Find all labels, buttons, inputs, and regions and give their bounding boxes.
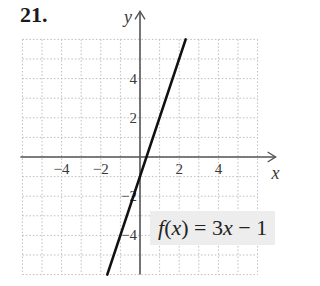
op: −: [238, 215, 250, 240]
x-axis-label: x: [271, 163, 280, 183]
x-tick-label: 4: [215, 161, 223, 177]
const: 1: [256, 215, 267, 240]
y-tick-label: 2: [130, 110, 138, 126]
equation-label: f(x) = 3x − 1: [150, 211, 275, 245]
rhs-var: x: [223, 215, 233, 240]
coef: 3: [212, 215, 223, 240]
x-tick-label: −2: [93, 161, 109, 177]
func-var: x: [171, 215, 181, 240]
y-tick-label: 4: [130, 71, 138, 87]
y-axis-label: y: [122, 7, 132, 27]
x-tick-label: −4: [54, 161, 70, 177]
x-tick-label: 2: [175, 161, 183, 177]
func-name: f: [158, 215, 164, 240]
